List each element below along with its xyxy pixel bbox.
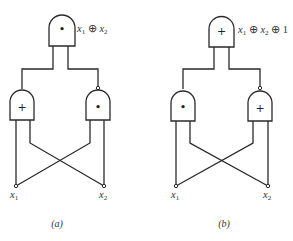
input-label-x1: x1 <box>170 189 180 202</box>
wire-right-gate-to-top <box>229 47 260 87</box>
output-label-b: x1 ⊕ x2 ⊕ 1 <box>237 24 288 37</box>
logic-circuits-figure: • + • x1 ⊕ x2 x1 x2 (a) + • + <box>0 0 293 241</box>
wire-x2-to-left-gate <box>190 120 268 186</box>
input-label-x2: x2 <box>262 189 272 202</box>
and-symbol: • <box>95 101 102 114</box>
input-terminal-x1 <box>174 184 177 187</box>
wire-left-gate-to-top <box>22 46 53 89</box>
inversion-bubble <box>96 86 99 89</box>
circuit-b: + • + x1 ⊕ x2 ⊕ 1 x1 x2 (b) <box>170 17 288 231</box>
input-terminal-x2 <box>266 184 269 187</box>
or-symbol: + <box>217 25 226 38</box>
and-symbol: • <box>180 101 187 114</box>
and-symbol: • <box>59 23 66 36</box>
inversion-bubble <box>258 86 261 89</box>
wire-x1-to-right-gate <box>176 120 253 186</box>
input-label-x1: x1 <box>9 189 19 202</box>
circuit-a: • + • x1 ⊕ x2 x1 x2 (a) <box>9 15 110 230</box>
wire-right-gate-to-top <box>68 46 98 87</box>
wire-left-gate-to-top <box>183 47 214 89</box>
wire-x2-to-left-gate <box>30 120 104 186</box>
or-symbol: + <box>255 102 264 115</box>
caption-a: (a) <box>51 218 63 230</box>
or-symbol: + <box>17 101 26 114</box>
wire-x1-to-right-gate <box>16 120 90 186</box>
output-label-a: x1 ⊕ x2 <box>76 23 108 36</box>
input-terminal-x1 <box>14 184 17 187</box>
caption-b: (b) <box>218 218 230 230</box>
input-label-x2: x2 <box>98 189 108 202</box>
input-terminal-x2 <box>102 184 105 187</box>
